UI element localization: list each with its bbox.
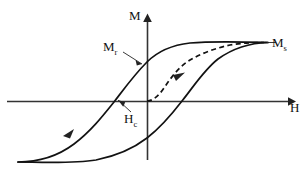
x-axis-label: H [290, 101, 299, 114]
lower-branch-curve [18, 43, 268, 163]
mr-leader-arrow-icon [136, 60, 142, 65]
ascending-branch-arrow-icon [63, 129, 74, 139]
hysteresis-plot-canvas [0, 0, 307, 184]
y-axis-label: M [129, 9, 141, 22]
saturation-label-subscript: s [284, 43, 287, 53]
saturation-label-symbol: M [272, 35, 284, 50]
hysteresis-figure: M H Mr Hc Ms [0, 0, 307, 184]
saturation-label: Ms [272, 36, 287, 52]
remanence-label-subscript: r [115, 47, 118, 57]
y-axis-label-text: M [129, 8, 141, 23]
coercivity-label-symbol: H [124, 111, 133, 126]
y-axis-arrow-icon [143, 14, 152, 23]
remanence-label-symbol: M [103, 39, 115, 54]
axes-group [7, 14, 296, 161]
coercivity-label: Hc [124, 112, 137, 128]
mr-leader-line [123, 52, 142, 64]
coercivity-label-subscript: c [133, 119, 137, 129]
x-axis-label-text: H [290, 100, 299, 115]
initial-curve-arrow-icon [173, 73, 185, 82]
remanence-label: Mr [103, 40, 117, 56]
